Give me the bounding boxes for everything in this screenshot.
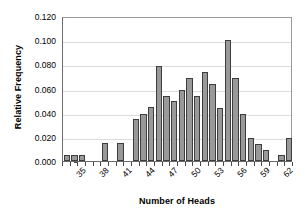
y-tick-label: 0.060 <box>16 85 56 94</box>
histogram-bar <box>225 40 231 161</box>
histogram-bar <box>194 96 200 161</box>
x-tick-label: 35 <box>75 166 88 179</box>
bars-layer <box>63 18 291 161</box>
histogram-bar <box>117 143 123 161</box>
histogram-bar <box>232 78 238 161</box>
plot-area <box>62 17 292 162</box>
x-tick-mark <box>292 162 293 166</box>
histogram-bar <box>248 138 254 161</box>
y-tick-label: 0.040 <box>16 109 56 118</box>
x-axis-title: Number of Heads <box>62 196 292 206</box>
histogram-bar <box>71 155 77 161</box>
histogram-bar <box>133 119 139 161</box>
x-axis-tick-labels: 35384144475053565962 <box>62 166 292 192</box>
histogram-bar <box>286 138 292 161</box>
y-tick-label: 0.100 <box>16 37 56 46</box>
x-tick-label: 59 <box>259 166 272 179</box>
histogram-bar <box>148 107 154 161</box>
x-tick-label: 62 <box>282 166 295 179</box>
x-tick-label: 44 <box>144 166 157 179</box>
y-tick-label: 0.080 <box>16 61 56 70</box>
histogram-bar <box>102 143 108 161</box>
histogram-bar <box>202 72 208 161</box>
histogram-bar <box>179 90 185 161</box>
x-tick-label: 47 <box>167 166 180 179</box>
x-tick-label: 53 <box>213 166 226 179</box>
histogram-bar <box>255 144 261 161</box>
y-tick-label: 0.120 <box>16 13 56 22</box>
relative-frequency-histogram: Relative Frequency 0.0000.0200.0400.0600… <box>0 0 305 213</box>
y-axis-tick-labels: 0.0000.0200.0400.0600.0800.1000.120 <box>16 17 56 162</box>
x-tick-label: 50 <box>190 166 203 179</box>
histogram-bar <box>156 66 162 161</box>
x-tick-label: 38 <box>98 166 111 179</box>
y-tick-label: 0.020 <box>16 133 56 142</box>
histogram-bar <box>240 114 246 161</box>
histogram-bar <box>278 155 284 161</box>
y-tick-label: 0.000 <box>16 158 56 167</box>
histogram-bar <box>209 84 215 161</box>
histogram-bar <box>263 150 269 161</box>
x-tick-label: 56 <box>236 166 249 179</box>
x-tick-label: 41 <box>121 166 134 179</box>
histogram-bar <box>163 96 169 161</box>
histogram-bar <box>217 108 223 161</box>
histogram-bar <box>186 78 192 161</box>
histogram-bar <box>79 155 85 161</box>
histogram-bar <box>140 114 146 161</box>
histogram-bar <box>171 101 177 161</box>
histogram-bar <box>64 155 70 161</box>
